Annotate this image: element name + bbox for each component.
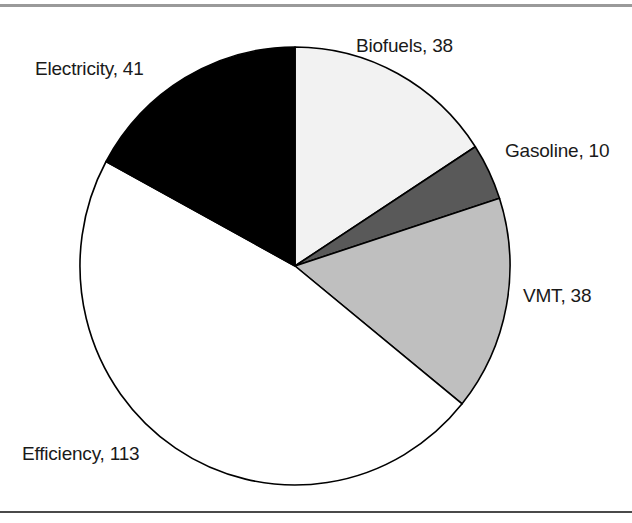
pie-label-vmt: VMT, 38: [523, 285, 591, 307]
pie-label-biofuels: Biofuels, 38: [356, 35, 453, 57]
pie-label-efficiency: Efficiency, 113: [22, 443, 139, 465]
pie-label-electricity: Electricity, 41: [35, 58, 144, 80]
bottom-divider-rule: [0, 511, 632, 513]
figure-canvas: Biofuels, 38 Gasoline, 10 VMT, 38 Effici…: [0, 0, 632, 523]
pie-slice-group: [80, 47, 510, 485]
pie-label-gasoline: Gasoline, 10: [505, 140, 609, 162]
